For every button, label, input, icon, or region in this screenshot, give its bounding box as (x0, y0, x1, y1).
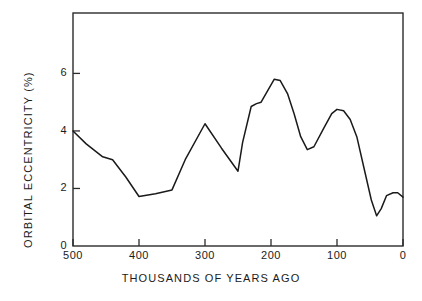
y-tick-label: 6 (45, 66, 67, 78)
x-axis-title: THOUSANDS OF YEARS AGO (0, 272, 422, 284)
x-tick-label: 400 (119, 249, 159, 261)
data-line-series-0 (73, 79, 403, 216)
x-tick-label: 100 (317, 249, 357, 261)
x-tick-label: 300 (185, 249, 225, 261)
x-axis-ticks (73, 239, 403, 246)
y-tick-label: 0 (45, 239, 67, 251)
x-tick-label: 200 (251, 249, 291, 261)
y-tick-label: 4 (45, 124, 67, 136)
chart-figure: 5004003002001000 0246 THOUSANDS OF YEARS… (0, 0, 422, 301)
x-tick-label: 0 (383, 249, 422, 261)
y-axis-title: ORBITAL ECCENTRICITY (%) (22, 71, 34, 248)
y-tick-label: 2 (45, 181, 67, 193)
